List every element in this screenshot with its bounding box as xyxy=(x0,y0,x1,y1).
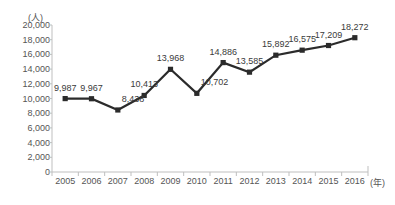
data-point-marker xyxy=(168,67,173,72)
x-axis-tick-label: 2009 xyxy=(160,176,180,186)
x-axis-unit-label: (年) xyxy=(370,176,385,189)
x-axis-tick-label: 2010 xyxy=(187,176,207,186)
x-axis-tick-label: 2012 xyxy=(239,176,259,186)
x-axis-tick-label: 2008 xyxy=(134,176,154,186)
data-point-label: 10,702 xyxy=(201,77,229,87)
data-point-label: 18,272 xyxy=(341,22,369,32)
clipped-footnote-strip xyxy=(0,199,395,205)
data-point-label: 9,987 xyxy=(54,83,77,93)
data-point-label: 8,438 xyxy=(122,94,145,104)
x-axis-tick-label: 2015 xyxy=(318,176,338,186)
data-point-marker xyxy=(300,48,305,53)
x-axis-tick-label: 2007 xyxy=(108,176,128,186)
data-point-marker xyxy=(247,70,252,75)
data-point-label: 9,967 xyxy=(80,83,103,93)
data-point-marker xyxy=(63,96,68,101)
data-point-label: 14,886 xyxy=(209,47,237,57)
x-axis-tick-label: 2016 xyxy=(345,176,365,186)
data-point-label: 15,892 xyxy=(262,39,290,49)
data-point-marker xyxy=(352,35,357,40)
data-point-marker xyxy=(221,60,226,65)
x-axis-tick-label: 2005 xyxy=(55,176,75,186)
y-axis-tick-marks xyxy=(48,25,52,172)
x-axis-tick-label: 2014 xyxy=(292,176,312,186)
data-point-label: 13,585 xyxy=(236,56,264,66)
data-point-label: 16,575 xyxy=(288,34,316,44)
x-axis-tick-label: 2013 xyxy=(266,176,286,186)
data-point-label: 17,209 xyxy=(315,30,343,40)
x-axis-tick-label: 2006 xyxy=(81,176,101,186)
data-point-marker xyxy=(326,43,331,48)
line-chart: (人) 20,00018,00016,00014,00012,00010,000… xyxy=(0,0,395,205)
data-point-marker xyxy=(115,107,120,112)
data-point-marker xyxy=(194,91,199,96)
data-point-label: 10,413 xyxy=(130,79,158,89)
data-point-marker xyxy=(273,53,278,58)
data-point-label: 13,968 xyxy=(157,53,185,63)
data-point-marker xyxy=(89,96,94,101)
x-axis-tick-label: 2011 xyxy=(213,176,232,186)
